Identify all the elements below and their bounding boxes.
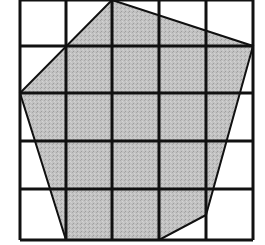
shaded-polygon — [20, 0, 253, 240]
grid-polygon-diagram — [0, 0, 265, 245]
